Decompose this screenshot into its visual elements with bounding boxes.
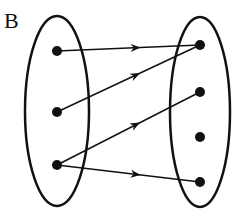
point-R2: [195, 87, 205, 97]
mapping-arrow-L2-R1: [57, 45, 200, 112]
point-R3: [195, 132, 205, 142]
mapping-diagram: [0, 0, 241, 211]
point-R4: [195, 177, 205, 187]
point-L1: [52, 46, 62, 56]
mapping-arrow-L3-R2: [57, 92, 200, 165]
arrowhead-icon: [129, 69, 141, 80]
point-L2: [52, 107, 62, 117]
point-R1: [195, 40, 205, 50]
point-L3: [52, 160, 62, 170]
arrowhead-icon: [129, 119, 142, 131]
